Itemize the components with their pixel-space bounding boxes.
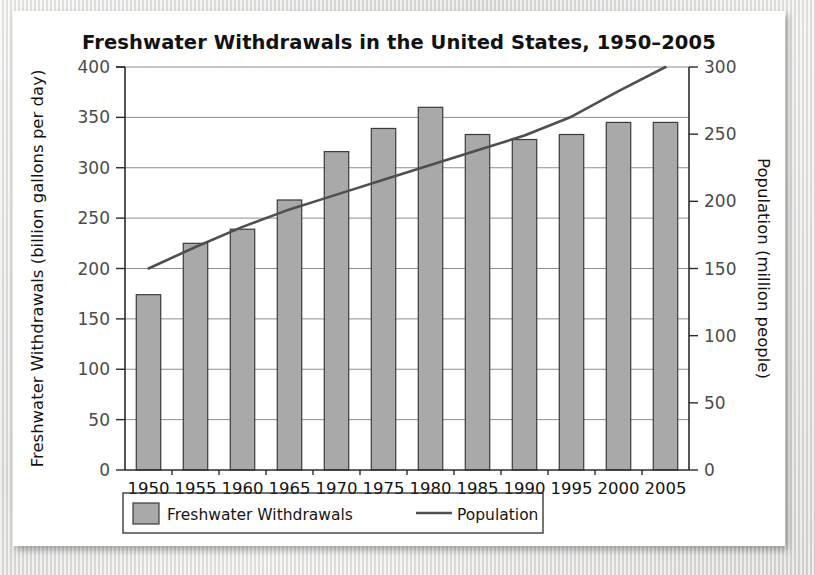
x-category-label: 2000 xyxy=(598,479,640,498)
y-axis-left-ticks: 050100150200250300350400 xyxy=(78,57,125,480)
x-category-label: 1965 xyxy=(269,479,311,498)
y-axis-right-ticks: 050100150200250300 xyxy=(689,57,736,480)
y-tick-label-right: 300 xyxy=(704,57,736,77)
bar xyxy=(136,295,160,470)
x-category-label: 1995 xyxy=(551,479,593,498)
x-category-label: 1975 xyxy=(363,479,405,498)
bar-series-group xyxy=(136,107,677,470)
y-tick-label-right: 150 xyxy=(704,259,736,279)
y-tick-label-right: 50 xyxy=(704,393,726,413)
y-axis-left-title: Freshwater Withdrawals (billion gallons … xyxy=(28,70,47,468)
page-background: Freshwater Withdrawals in the United Sta… xyxy=(0,0,815,575)
x-axis-category-labels: 1950195519601965197019751980198519901995… xyxy=(128,470,687,498)
x-category-label: 1970 xyxy=(316,479,358,498)
x-category-label: 1985 xyxy=(457,479,499,498)
x-category-label: 1980 xyxy=(410,479,452,498)
x-category-label: 1955 xyxy=(175,479,217,498)
x-category-label: 2005 xyxy=(645,479,687,498)
y-tick-label-right: 0 xyxy=(704,460,715,480)
y-tick-label-left: 300 xyxy=(78,158,110,178)
x-category-label: 1960 xyxy=(222,479,264,498)
bar xyxy=(230,229,254,470)
y-tick-label-right: 200 xyxy=(704,191,736,211)
chart-legend: Freshwater WithdrawalsPopulation xyxy=(123,493,543,533)
bar xyxy=(183,243,207,470)
y-tick-label-left: 0 xyxy=(99,460,110,480)
y-tick-label-left: 150 xyxy=(78,309,110,329)
chart-plot-area: 050100150200250300350400 050100150200250… xyxy=(13,11,785,546)
legend-label-population: Population xyxy=(457,506,538,524)
y-tick-label-right: 100 xyxy=(704,326,736,346)
y-tick-label-left: 350 xyxy=(78,107,110,127)
y-tick-label-left: 200 xyxy=(78,259,110,279)
y-axis-right-title: Population (million people) xyxy=(754,158,773,379)
legend-label-freshwater-withdrawals: Freshwater Withdrawals xyxy=(167,506,353,524)
chart-card: Freshwater Withdrawals in the United Sta… xyxy=(13,11,785,546)
x-category-label: 1990 xyxy=(504,479,546,498)
y-tick-label-left: 250 xyxy=(78,208,110,228)
y-tick-label-left: 400 xyxy=(78,57,110,77)
bar xyxy=(559,135,583,470)
bar xyxy=(653,122,677,470)
bar xyxy=(465,135,489,470)
legend-swatch-freshwater-withdrawals xyxy=(133,503,159,524)
y-tick-label-left: 50 xyxy=(88,410,110,430)
bar xyxy=(277,200,301,470)
y-tick-label-right: 250 xyxy=(704,124,736,144)
gridlines-group xyxy=(125,67,689,420)
bar xyxy=(324,152,348,470)
x-category-label: 1950 xyxy=(128,479,170,498)
y-tick-label-left: 100 xyxy=(78,359,110,379)
bar xyxy=(512,140,536,470)
bar xyxy=(606,122,630,470)
